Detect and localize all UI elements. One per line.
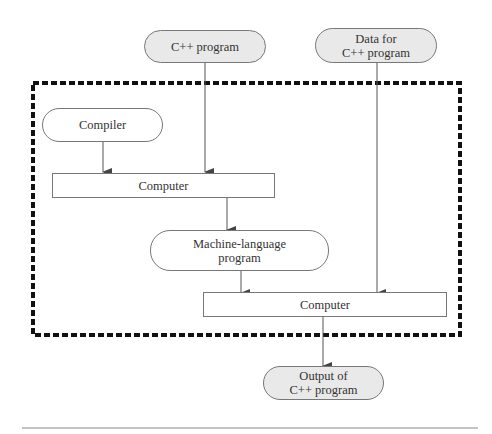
node-compiler: Compiler	[42, 108, 163, 142]
node-label: Computer	[300, 298, 350, 312]
node-cpp-program: C++ program	[144, 30, 266, 63]
node-data-for-program: Data for C++ program	[315, 28, 437, 63]
node-label-line2: program	[218, 251, 260, 265]
node-output: Output of C++ program	[263, 366, 384, 400]
node-label: Compiler	[79, 118, 126, 132]
node-label-line2: C++ program	[342, 46, 410, 60]
node-computer-2: Computer	[203, 292, 447, 317]
node-label-line1: Output of	[299, 369, 347, 383]
node-label: C++ program	[171, 40, 239, 54]
node-label-line1: Machine-language	[193, 237, 286, 251]
node-machine-language-program: Machine-language program	[150, 230, 329, 271]
diagram-connectors	[0, 0, 492, 434]
node-computer-1: Computer	[52, 173, 275, 198]
node-label-line2: C++ program	[290, 383, 358, 397]
node-label: Computer	[139, 179, 189, 193]
node-label-line1: Data for	[355, 32, 396, 46]
